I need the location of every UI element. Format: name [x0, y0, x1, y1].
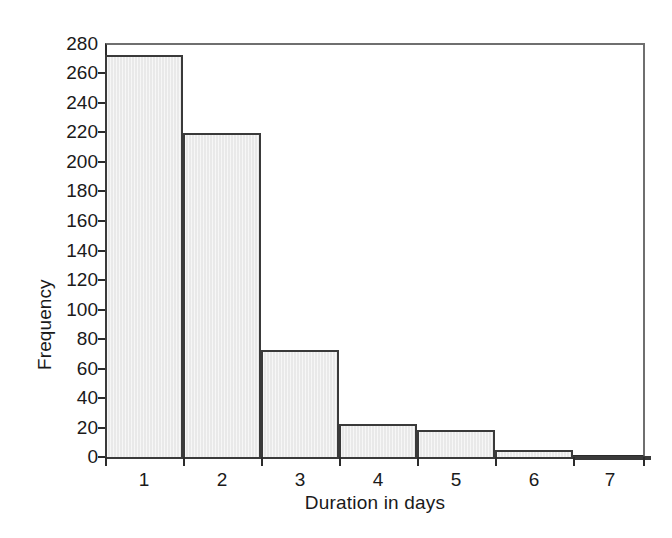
bar-5 — [417, 430, 495, 459]
x-tick-mark — [105, 457, 107, 466]
y-tick-label: 60 — [32, 359, 98, 378]
bar-7 — [573, 456, 651, 460]
y-tick-label: 200 — [32, 152, 98, 171]
x-tick-mark — [183, 457, 185, 466]
y-tick-label: 280 — [32, 34, 98, 53]
y-tick-label: 120 — [32, 270, 98, 289]
y-axis-tick-labels: 280 260 240 220 200 180 160 140 120 100 … — [28, 0, 98, 538]
bar-6 — [495, 450, 573, 459]
y-tick-label: 20 — [32, 418, 98, 437]
x-tick-label: 5 — [417, 469, 495, 491]
y-tick-label: 240 — [32, 93, 98, 112]
y-tick-label: 220 — [32, 122, 98, 141]
y-tick-label: 80 — [32, 329, 98, 348]
y-tick-label: 0 — [32, 447, 98, 466]
x-tick-label: 3 — [261, 469, 339, 491]
y-tick-label: 100 — [32, 300, 98, 319]
y-tick-label: 260 — [32, 63, 98, 82]
x-tick-mark — [417, 457, 419, 466]
x-tick-label: 2 — [183, 469, 261, 491]
x-tick-label: 4 — [339, 469, 417, 491]
histogram-chart: Frequency 280 260 240 220 200 180 160 14… — [0, 0, 672, 538]
bar-4 — [339, 424, 417, 459]
x-axis-title: Duration in days — [105, 492, 645, 514]
y-tick-label: 180 — [32, 181, 98, 200]
bar-2 — [183, 133, 261, 459]
x-tick-mark — [495, 457, 497, 466]
x-tick-mark — [261, 457, 263, 466]
bar-3 — [261, 350, 339, 459]
x-tick-label: 7 — [571, 469, 649, 491]
y-tick-label: 160 — [32, 211, 98, 230]
y-tick-label: 140 — [32, 241, 98, 260]
bar-1 — [105, 55, 183, 459]
x-tick-mark — [339, 457, 341, 466]
y-tick-label: 40 — [32, 388, 98, 407]
x-tick-label: 6 — [495, 469, 573, 491]
x-tick-label: 1 — [105, 469, 183, 491]
x-tick-mark — [573, 457, 575, 466]
x-tick-mark — [643, 457, 645, 466]
